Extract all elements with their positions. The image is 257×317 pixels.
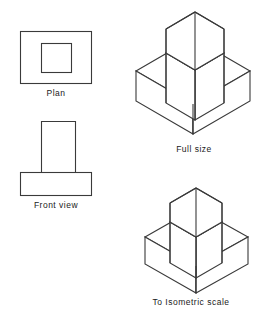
- caption-full-size: Full size: [138, 144, 250, 154]
- technical-drawing-canvas: [0, 0, 257, 317]
- drawing-page: Plan Front view Full size To Isometric s…: [0, 0, 257, 317]
- front-view-figure: [21, 122, 92, 196]
- caption-plan: Plan: [0, 88, 112, 98]
- plan-view-figure: [21, 32, 92, 84]
- plan-inner-square: [42, 44, 72, 73]
- front-view-base: [21, 173, 92, 196]
- caption-isometric-scale: To Isometric scale: [128, 297, 254, 307]
- front-view-upright: [42, 122, 76, 173]
- isometric-scale-figure: [145, 188, 248, 293]
- full-size-isometric-figure: [136, 12, 250, 134]
- caption-front-view: Front view: [0, 200, 112, 210]
